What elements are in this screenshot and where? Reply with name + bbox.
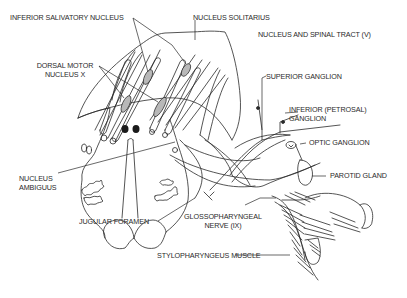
label-jugular-foramen: JUGULAR FORAMEN [79, 217, 149, 226]
label-stylopharyngeus-muscle: STYLOPHARYNGEUS MUSCLE [157, 251, 261, 260]
label-parotid-gland: PAROTID GLAND [330, 171, 387, 180]
label-inferior-petrosal-ganglion: INFERIOR (PETROSAL) GANGLION [289, 105, 367, 123]
optic-ganglion [286, 142, 296, 149]
label-nucleus-ambiguus: NUCLEUS AMBIGUUS [19, 174, 57, 192]
label-nucleus-spinal-tract: NUCLEUS AND SPINAL TRACT (V) [258, 30, 371, 39]
nucleus-ambiguus-right [155, 179, 178, 201]
label-inferior-ganglion-line2: GANGLION [289, 114, 367, 123]
label-dorsal-motor-line2: NUCLEUS X [30, 70, 100, 79]
label-dorsal-motor-nucleus: DORSAL MOTOR NUCLEUS X [30, 61, 100, 79]
label-inferior-salivatory-nucleus: INFERIOR SALIVATORY NUCLEUS [10, 13, 124, 22]
label-optic-ganglion: OPTIC GANGLION [309, 138, 370, 147]
label-dorsal-motor-line1: DORSAL MOTOR [30, 61, 100, 70]
label-nucleus-solitarius: NUCLEUS SOLITARIUS [193, 13, 270, 22]
label-glossopharyngeal-line2: NERVE (IX) [178, 221, 268, 230]
label-glossopharyngeal-line1: GLOSSOPHARYNGEAL [178, 212, 268, 221]
label-glossopharyngeal-nerve: GLOSSOPHARYNGEAL NERVE (IX) [178, 212, 268, 230]
parotid-gland [298, 160, 313, 185]
nucleus-ambiguus-left [82, 180, 104, 205]
label-nucleus-ambiguus-line1: NUCLEUS [19, 174, 57, 183]
pharynx-outline [272, 196, 318, 280]
label-superior-ganglion: SUPERIOR GANGLION [266, 72, 342, 81]
label-inferior-ganglion-line1: INFERIOR (PETROSAL) [289, 105, 367, 114]
label-nucleus-ambiguus-line2: AMBIGUUS [19, 183, 57, 192]
